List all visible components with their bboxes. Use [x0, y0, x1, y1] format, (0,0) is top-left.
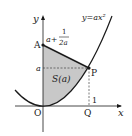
point-a-label: A — [33, 40, 41, 50]
y-axis-arrow-icon — [41, 15, 45, 20]
origin-label: O — [34, 108, 41, 118]
point-p-label: P — [91, 68, 97, 78]
a-value-prefix: a+ — [46, 35, 57, 44]
curve-label: y=ax² — [81, 13, 106, 22]
region-label: S(a) — [52, 74, 71, 84]
one-tick-label: 1 — [92, 96, 97, 105]
point-q-label: Q — [84, 108, 91, 118]
y-axis-label: y — [32, 13, 39, 24]
a-tick-label: a — [36, 64, 41, 73]
x-axis-label: x — [118, 107, 124, 118]
a-value-numerator: 1 — [62, 28, 66, 36]
parabola-area-diagram: y x y=ax² A a+ 1 2a a P S(a) 1 O Q — [0, 0, 132, 136]
a-value-denominator: 2a — [58, 39, 68, 47]
point-a — [41, 43, 44, 46]
